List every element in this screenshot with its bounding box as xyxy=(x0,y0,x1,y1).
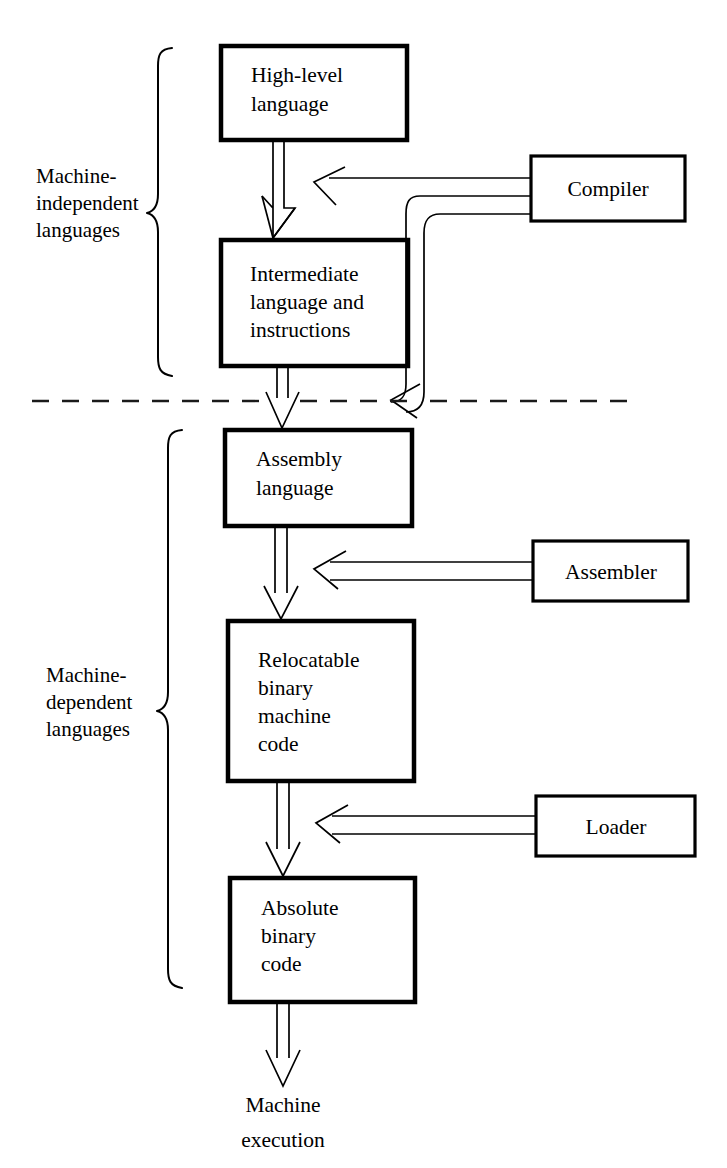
label-machine-dependent-line-2: languages xyxy=(46,717,130,741)
edge-assembler-to-assembly-step xyxy=(314,551,533,589)
label-intermediate-language-line-1: language and xyxy=(250,290,364,314)
label-assembly-language-line-0: Assembly xyxy=(256,447,342,471)
label-intermediate-language-line-2: instructions xyxy=(250,318,350,342)
edge-loader-to-relocatable-step xyxy=(316,805,536,843)
edge-absolute-to-machine-execution xyxy=(266,1002,300,1086)
brace-machine-dependent xyxy=(157,430,182,988)
label-relocatable-line-3: code xyxy=(258,732,299,756)
edge-compiler-to-intermediate-step xyxy=(391,196,531,418)
label-machine-independent-line-0: Machine- xyxy=(36,164,116,188)
edge-relocatable-to-absolute xyxy=(266,781,300,876)
node-relocatable-binary-machine-code xyxy=(228,621,414,781)
label-machine-dependent-line-0: Machine- xyxy=(46,663,126,687)
label-machine-independent-line-2: languages xyxy=(36,218,120,242)
flowchart-diagram: High-level language Intermediate languag… xyxy=(0,0,727,1168)
label-machine-execution: Machine execution xyxy=(241,1093,325,1152)
label-machine-independent-line-1: independent xyxy=(36,191,139,215)
label-machine-execution-line-1: execution xyxy=(241,1128,325,1152)
label-absolute-line-0: Absolute xyxy=(261,896,339,920)
label-absolute-line-1: binary xyxy=(261,924,316,948)
label-machine-dependent-line-1: dependent xyxy=(46,690,132,714)
label-high-level-language-line-0: High-level xyxy=(251,63,343,87)
label-loader: Loader xyxy=(586,815,647,839)
label-absolute-line-2: code xyxy=(261,952,302,976)
label-machine-independent-languages: Machine- independent languages xyxy=(36,164,139,242)
label-intermediate-language-line-0: Intermediate xyxy=(250,262,359,286)
label-high-level-language-line-1: language xyxy=(251,92,329,116)
label-machine-dependent-languages: Machine- dependent languages xyxy=(46,663,132,741)
edge-high-level-to-intermediate xyxy=(262,140,295,238)
label-relocatable-line-2: machine xyxy=(258,704,331,728)
label-intermediate-language: Intermediate language and instructions xyxy=(250,262,364,342)
label-relocatable-line-1: binary xyxy=(258,676,313,700)
edge-assembly-to-relocatable xyxy=(264,526,298,619)
diagram-canvas: High-level language Intermediate languag… xyxy=(0,0,727,1168)
label-assembly-language-line-1: language xyxy=(256,476,334,500)
label-assembler: Assembler xyxy=(565,560,657,584)
edge-intermediate-to-assembly xyxy=(266,366,299,428)
label-compiler: Compiler xyxy=(567,177,648,201)
edge-compiler-to-high-level-step xyxy=(314,167,531,205)
brace-machine-independent xyxy=(147,48,172,376)
label-machine-execution-line-0: Machine xyxy=(245,1093,320,1117)
label-relocatable-line-0: Relocatable xyxy=(258,648,359,672)
